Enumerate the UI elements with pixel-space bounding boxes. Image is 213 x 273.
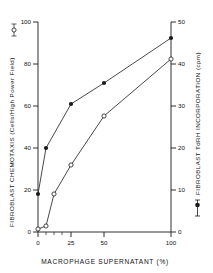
data-point-tdrh-0 bbox=[36, 192, 40, 196]
right-axis-ticks bbox=[171, 22, 176, 232]
right-tick-label-40: 40 bbox=[178, 60, 185, 67]
left-tick-label-80: 80 bbox=[24, 60, 31, 67]
data-point-chemotaxis-100 bbox=[169, 57, 173, 61]
left-axis-tick-labels: 0 20 40 60 80 100 bbox=[21, 18, 32, 235]
dual-axis-line-chart: 0 20 40 60 80 100 0 10 20 30 40 50 bbox=[0, 0, 213, 273]
data-point-tdrh-100 bbox=[169, 36, 173, 40]
x-tick-label-0: 0 bbox=[36, 239, 40, 246]
x-tick-label-50: 50 bbox=[101, 239, 108, 246]
data-point-chemotaxis-6 bbox=[44, 224, 48, 228]
data-point-tdrh-50 bbox=[102, 81, 106, 85]
legend-marker-open-circle-group bbox=[12, 24, 17, 36]
data-point-tdrh-25 bbox=[69, 102, 73, 106]
right-tick-label-30: 30 bbox=[178, 102, 185, 109]
right-tick-label-20: 20 bbox=[178, 144, 185, 151]
data-point-chemotaxis-50 bbox=[102, 114, 106, 118]
figure-container: 0 20 40 60 80 100 0 10 20 30 40 50 bbox=[0, 0, 213, 273]
legend-open-circle-icon bbox=[12, 28, 16, 32]
data-point-chemotaxis-0 bbox=[36, 227, 40, 231]
left-axis-title-group: FIBROBLAST CHEMOTAXIS (Cells/High Power … bbox=[8, 57, 15, 227]
legend-marker-filled-circle-group bbox=[195, 200, 200, 216]
left-tick-label-20: 20 bbox=[24, 186, 31, 193]
right-axis-title-group: FIBROBLAST TdRH INCORPORATION (cpm) bbox=[194, 52, 201, 195]
left-axis-title: FIBROBLAST CHEMOTAXIS (Cells/High Power … bbox=[8, 57, 15, 227]
x-axis-ticks bbox=[38, 232, 171, 237]
data-point-chemotaxis-25 bbox=[69, 163, 73, 167]
x-tick-label-25: 25 bbox=[68, 239, 75, 246]
right-tick-label-10: 10 bbox=[178, 186, 185, 193]
legend-filled-circle-icon bbox=[195, 203, 200, 208]
x-axis-title: MACROPHAGE SUPERNATANT (%) bbox=[41, 258, 169, 266]
left-tick-label-0: 0 bbox=[28, 228, 32, 235]
right-axis-tick-labels: 0 10 20 30 40 50 bbox=[178, 18, 185, 235]
data-point-chemotaxis-12 bbox=[52, 192, 56, 196]
right-axis-title: FIBROBLAST TdRH INCORPORATION (cpm) bbox=[194, 52, 201, 195]
right-tick-label-50: 50 bbox=[178, 18, 185, 25]
left-tick-label-100: 100 bbox=[21, 18, 32, 25]
left-tick-label-60: 60 bbox=[24, 102, 31, 109]
left-tick-label-40: 40 bbox=[24, 144, 31, 151]
left-axis-ticks bbox=[33, 22, 38, 232]
right-tick-label-0: 0 bbox=[178, 228, 182, 235]
x-tick-label-100: 100 bbox=[166, 239, 177, 246]
x-axis-tick-labels: 0 25 50 100 bbox=[36, 239, 176, 246]
data-point-tdrh-6 bbox=[44, 146, 48, 150]
